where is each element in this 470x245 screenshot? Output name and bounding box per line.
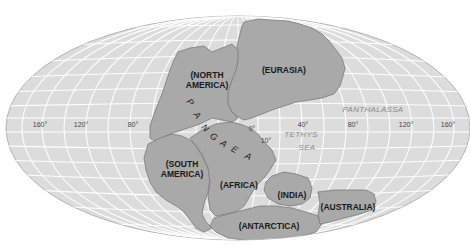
label-north-america-2: AMERICA) — [186, 80, 229, 90]
label-south-america-2: AMERICA) — [161, 169, 204, 179]
label-north-america-1: (NORTH — [190, 70, 223, 80]
label-antarctica: (ANTARCTICA) — [239, 221, 300, 231]
longitude-label-0: 0° — [249, 125, 256, 132]
longitude-label-120w: 120° — [74, 121, 89, 128]
label-australia: (AUSTRALIA) — [321, 202, 376, 212]
longitude-label-80e: 80° — [348, 121, 359, 128]
longitude-label-80w: 80° — [128, 121, 139, 128]
longitude-label-120e: 120° — [399, 121, 414, 128]
latitude-label-10: 10° — [261, 137, 272, 144]
label-eurasia: (EURASIA) — [262, 65, 306, 75]
label-panthalassa: PANTHALASSA — [343, 105, 404, 114]
pangaea-world-map: (NORTH AMERICA) (EURASIA) (SOUTH AMERICA… — [0, 0, 470, 245]
longitude-label-160w: 160° — [33, 121, 48, 128]
label-sea: SEA — [299, 143, 316, 152]
label-africa: (AFRICA) — [220, 180, 258, 190]
label-india: (INDIA) — [278, 190, 307, 200]
longitude-label-160e: 160° — [441, 121, 456, 128]
label-tethys: TETHYS — [284, 130, 318, 139]
longitude-label-40e: 40° — [298, 121, 309, 128]
label-south-america-1: (SOUTH — [166, 159, 199, 169]
